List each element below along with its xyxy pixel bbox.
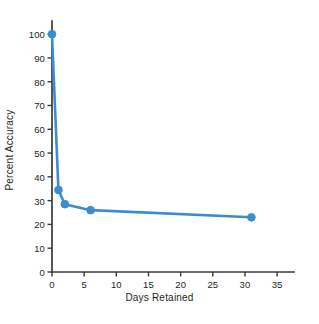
data-series-group bbox=[48, 30, 255, 221]
x-tick-label: 20 bbox=[175, 279, 186, 290]
data-point-marker bbox=[87, 206, 95, 214]
y-tick-label: 100 bbox=[29, 29, 45, 40]
x-tick-label: 35 bbox=[272, 279, 283, 290]
x-tick-label: 25 bbox=[207, 279, 218, 290]
y-tick-label: 20 bbox=[34, 219, 45, 230]
data-point-marker bbox=[55, 186, 63, 194]
y-tick-label: 50 bbox=[34, 148, 45, 159]
y-tick-label: 90 bbox=[34, 52, 45, 63]
tick-marks-group bbox=[48, 34, 278, 276]
x-tick-label: 5 bbox=[81, 279, 86, 290]
axes-group bbox=[52, 21, 294, 272]
data-point-marker bbox=[248, 213, 256, 221]
series-line bbox=[52, 34, 251, 217]
y-tick-label: 0 bbox=[40, 267, 45, 278]
y-tick-label: 60 bbox=[34, 124, 45, 135]
x-axis-title: Days Retained bbox=[0, 292, 319, 303]
x-tick-label: 10 bbox=[111, 279, 122, 290]
data-point-marker bbox=[61, 200, 69, 208]
chart-plot-area bbox=[0, 0, 319, 324]
y-tick-label: 30 bbox=[34, 195, 45, 206]
y-tick-label: 10 bbox=[34, 243, 45, 254]
x-tick-label: 15 bbox=[143, 279, 154, 290]
y-tick-label: 80 bbox=[34, 76, 45, 87]
chart-container: 0102030405060708090100 05101520253035 Da… bbox=[0, 0, 319, 324]
x-tick-label: 30 bbox=[240, 279, 251, 290]
x-tick-label: 0 bbox=[49, 279, 54, 290]
y-tick-label: 40 bbox=[34, 171, 45, 182]
y-axis-title: Percent Accuracy bbox=[4, 109, 15, 190]
y-tick-label: 70 bbox=[34, 100, 45, 111]
data-point-marker bbox=[48, 30, 56, 38]
